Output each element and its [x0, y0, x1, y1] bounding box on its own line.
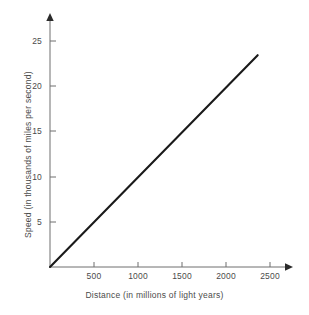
x-tick-label: 500 — [87, 271, 102, 281]
x-axis-arrow-icon — [285, 263, 293, 271]
y-axis-ticks — [50, 41, 56, 222]
x-tick-label: 2500 — [260, 271, 280, 281]
x-tick-label: 2000 — [216, 271, 236, 281]
y-axis-arrow-icon — [46, 13, 53, 21]
x-axis-title: Distance (in millions of light years) — [0, 290, 309, 300]
chart-container: 25 20 15 10 5 500 1000 1500 2000 2500 Di… — [0, 0, 309, 315]
x-tick-label: 1000 — [128, 271, 148, 281]
chart-plot-area — [0, 0, 309, 315]
y-axis-title: Speed (in thousands of miles per second) — [23, 71, 33, 238]
y-tick-label: 25 — [26, 36, 42, 46]
x-axis-ticks — [94, 262, 270, 267]
x-tick-label: 1500 — [172, 271, 192, 281]
data-series-line — [50, 55, 258, 267]
